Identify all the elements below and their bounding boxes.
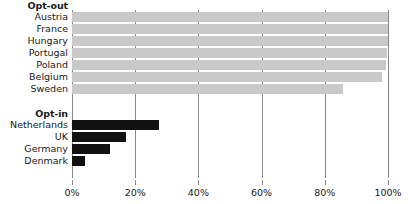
bar-portugal (72, 48, 387, 58)
category-label: France (0, 24, 68, 34)
horizontal-bar-chart: Opt-outAustriaFranceHungaryPortugalPolan… (0, 0, 418, 204)
category-label: Portugal (0, 48, 68, 58)
bar-germany (72, 144, 110, 154)
category-label: Poland (0, 60, 68, 70)
x-tick-mark (325, 180, 326, 185)
x-tick-mark (198, 180, 199, 185)
category-label: Sweden (0, 84, 68, 94)
group-header-optout: Opt-out (0, 1, 68, 11)
bar-uk (72, 132, 126, 142)
x-tick-label: 60% (242, 187, 282, 198)
bar-poland (72, 60, 386, 70)
bar-austria (72, 12, 388, 22)
category-label: Germany (0, 144, 68, 154)
x-tick-label: 20% (115, 187, 155, 198)
x-tick-label: 40% (178, 187, 218, 198)
gridline-100 (388, 10, 389, 178)
bar-france (72, 24, 388, 34)
category-label-column: Opt-outAustriaFranceHungaryPortugalPolan… (0, 0, 70, 204)
bar-belgium (72, 72, 382, 82)
bar-netherlands (72, 120, 159, 130)
category-label: Denmark (0, 156, 68, 166)
category-label: Hungary (0, 36, 68, 46)
bar-sweden (72, 84, 343, 94)
x-axis: 0%20%40%60%80%100% (0, 180, 418, 204)
category-label: UK (0, 132, 68, 142)
x-tick-mark (135, 180, 136, 185)
x-tick-label: 100% (368, 187, 408, 198)
bar-denmark (72, 156, 85, 166)
x-tick-label: 80% (305, 187, 345, 198)
x-tick-mark (262, 180, 263, 185)
category-label: Austria (0, 12, 68, 22)
x-tick-mark (388, 180, 389, 185)
plot-area (72, 0, 388, 180)
x-tick-label: 0% (52, 187, 92, 198)
x-tick-mark (72, 180, 73, 185)
category-label: Belgium (0, 72, 68, 82)
category-label: Netherlands (0, 120, 68, 130)
group-header-optin: Opt-in (0, 109, 68, 119)
bar-hungary (72, 36, 388, 46)
